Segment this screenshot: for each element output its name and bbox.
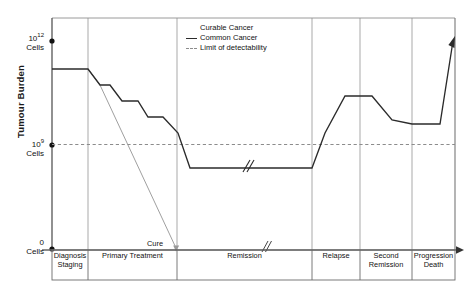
- y-tick-label-zero: 0 Cells: [0, 238, 44, 256]
- common-cancer-line: [52, 41, 453, 168]
- legend-item-limit-of-detectability: Limit of detectability: [186, 43, 267, 53]
- legend-item-common-cancer: Common Cancer: [186, 33, 267, 43]
- legend-label-common-cancer: Common Cancer: [200, 33, 257, 43]
- y-tick-mid-value: 109: [32, 140, 44, 149]
- phase-label-primary-treatment: Primary Treatment: [88, 250, 177, 280]
- y-tick-label-top: 1012 Cells: [0, 31, 44, 52]
- phase-label-relapse: Relapse: [312, 250, 360, 280]
- phase-label-remission: Remission: [177, 250, 312, 280]
- y-tick-mid-unit: Cells: [0, 149, 44, 158]
- y-tick-top-value: 1012: [28, 34, 44, 43]
- legend-swatch-common-cancer: [186, 33, 197, 43]
- curable-cancer-line: [88, 69, 176, 248]
- legend-label-limit-of-detectability: Limit of detectability: [200, 43, 267, 53]
- cure-annotation-label: Cure: [147, 239, 163, 248]
- phase-label-diagnosis-staging: DiagnosisStaging: [52, 250, 88, 280]
- phase-label-second-remission: SecondRemission: [360, 250, 412, 280]
- y-tick-zero-unit: Cells: [0, 247, 44, 256]
- y-tick-label-mid: 109 Cells: [0, 137, 44, 158]
- y-tick-top-unit: Cells: [0, 43, 44, 52]
- tumour-burden-chart: Tumour Burden 1012 Cells 109 Cells 0 Cel…: [0, 0, 468, 285]
- curve-break-mark: [243, 160, 254, 172]
- legend-swatch-limit-of-detectability: [186, 43, 197, 53]
- legend-item-curable-cancer: Curable Cancer: [186, 23, 267, 33]
- y-tick-marker-top: [49, 38, 54, 43]
- common-cancer-arrowhead: [448, 36, 455, 48]
- phase-band-labels: DiagnosisStaging Primary Treatment Remis…: [52, 250, 455, 280]
- legend-label-curable-cancer: Curable Cancer: [200, 23, 253, 33]
- chart-legend: Curable Cancer Common Cancer Limit of de…: [186, 23, 267, 54]
- legend-swatch-curable-cancer: [186, 23, 197, 33]
- y-axis-title: Tumour Burden: [15, 54, 26, 150]
- y-tick-zero-value: 0: [40, 238, 44, 247]
- phase-label-progression-death: ProgressionDeath: [412, 250, 455, 280]
- x-axis-arrowhead: [456, 246, 464, 254]
